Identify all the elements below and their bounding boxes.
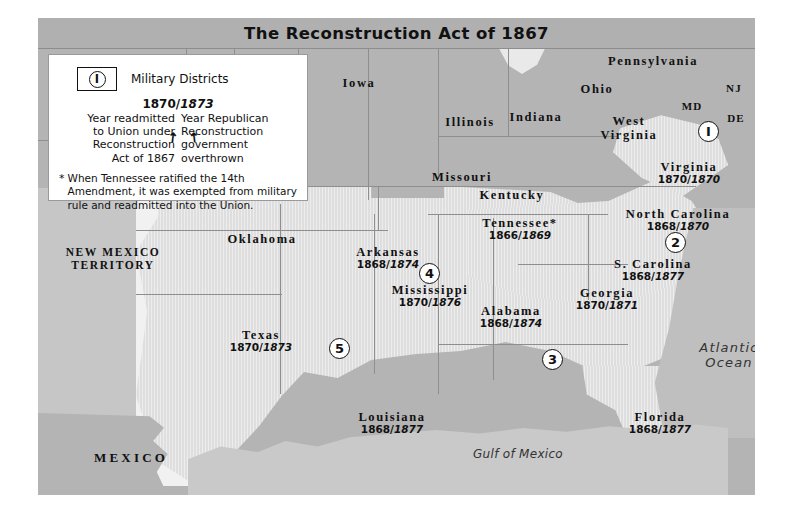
legend-footnote: * When Tennessee ratified the 14th Amend…	[59, 172, 297, 212]
legend-sample-year-overthrown: 1873	[180, 97, 213, 111]
page-title: The Reconstruction Act of 1867	[244, 24, 549, 43]
state-label-ohio: Ohio	[562, 82, 632, 96]
legend-left-note-line-2: to Union under	[59, 125, 175, 138]
region-label-new-mexico-line-1: NEW MEXICO	[48, 246, 178, 259]
state-label-louisiana: Louisiana 1868/1877	[333, 410, 451, 436]
legend-right-note-line-4: overthrown	[181, 152, 297, 165]
state-years-texas: 1870/1873	[206, 342, 316, 354]
state-label-indiana: Indiana	[493, 110, 579, 124]
map-legend: I Military Districts 1870/1873 ↗ ↗ Year …	[48, 54, 308, 201]
state-name-virginia: Virginia	[636, 160, 742, 174]
military-district-4-marker[interactable]: 4	[419, 263, 440, 284]
state-label-tennessee: Tennessee* 1866/1869	[458, 216, 582, 242]
state-border	[378, 186, 379, 230]
military-district-3-marker[interactable]: 3	[542, 349, 563, 370]
state-border	[438, 344, 628, 345]
state-label-new-jersey: NJ	[716, 82, 752, 94]
state-label-missouri: Missouri	[412, 170, 512, 184]
legend-district-swatch: I	[77, 67, 117, 91]
state-label-south-carolina: S. Carolina 1868/1877	[590, 257, 716, 283]
state-label-texas: Texas 1870/1873	[206, 328, 316, 354]
ocean-label-atlantic-line-1: Atlantic	[686, 341, 755, 356]
state-label-west-virginia: West Virginia	[586, 114, 672, 142]
region-label-new-mexico-territory: NEW MEXICO TERRITORY	[48, 246, 178, 272]
state-name-north-carolina: North Carolina	[610, 207, 746, 221]
legend-right-note-line-1: Year Republican	[181, 112, 297, 125]
map-canvas: The Reconstruction Act of 1867 I Militar…	[38, 18, 755, 495]
legend-sample-years: 1870/1873	[59, 97, 297, 111]
legend-left-note-line-1: Year readmitted	[59, 112, 175, 125]
state-years-south-carolina: 1868/1877	[590, 271, 716, 283]
state-label-georgia: Georgia 1870/1871	[555, 286, 659, 312]
state-years-florida: 1868/1877	[608, 424, 712, 436]
region-label-new-mexico-line-2: TERRITORY	[48, 259, 178, 272]
state-years-georgia: 1870/1871	[555, 300, 659, 312]
state-border	[428, 214, 608, 215]
state-name-tennessee: Tennessee*	[458, 216, 582, 230]
state-years-mississippi: 1870/1876	[372, 297, 488, 309]
legend-left-note: Year readmitted to Union under Reconstru…	[59, 112, 175, 165]
state-label-west-virginia-line-1: West	[586, 114, 672, 128]
military-district-icon: I	[89, 71, 106, 88]
ocean-label-atlantic: Atlantic Ocean	[686, 341, 755, 370]
ocean-label-gulf-of-mexico: Gulf of Mexico	[438, 448, 598, 461]
state-label-oklahoma: Oklahoma	[212, 232, 312, 246]
state-years-alabama: 1868/1874	[459, 318, 563, 330]
state-years-tennessee: 1866/1869	[458, 230, 582, 242]
state-border	[438, 48, 439, 178]
state-border	[493, 218, 494, 380]
state-label-mississippi: Mississippi 1870/1876	[372, 283, 488, 309]
military-district-5-marker[interactable]: 5	[329, 338, 350, 359]
state-name-mississippi: Mississippi	[372, 283, 488, 297]
state-border	[368, 48, 369, 200]
state-name-arkansas: Arkansas	[333, 245, 443, 259]
state-years-north-carolina: 1868/1870	[610, 221, 746, 233]
state-name-louisiana: Louisiana	[333, 410, 451, 424]
state-years-virginia: 1870/1870	[636, 174, 742, 186]
map-title-bar: The Reconstruction Act of 1867	[38, 18, 755, 49]
military-district-1-marker[interactable]: I	[698, 121, 719, 142]
legend-left-note-line-4: Act of 1867	[59, 152, 175, 165]
state-name-texas: Texas	[206, 328, 316, 342]
state-label-florida: Florida 1868/1877	[608, 410, 712, 436]
state-border	[136, 294, 282, 295]
state-name-georgia: Georgia	[555, 286, 659, 300]
state-label-delaware: DE	[718, 112, 754, 124]
state-label-west-virginia-line-2: Virginia	[586, 128, 672, 142]
footnote-star: *	[59, 172, 65, 212]
state-label-kentucky: Kentucky	[462, 188, 562, 202]
state-border	[136, 230, 388, 231]
state-label-maryland: MD	[674, 100, 710, 112]
military-district-2-marker[interactable]: 2	[665, 232, 686, 253]
legend-district-row: I Military Districts	[77, 67, 297, 91]
region-label-mexico: MEXICO	[56, 451, 206, 466]
state-label-virginia: Virginia 1870/1870	[636, 160, 742, 186]
legend-district-caption: Military Districts	[131, 72, 229, 86]
ocean-label-atlantic-line-2: Ocean	[686, 356, 755, 371]
state-label-pennsylvania: Pennsylvania	[588, 54, 718, 68]
state-name-south-carolina: S. Carolina	[590, 257, 716, 271]
legend-left-note-line-3: Reconstruction	[59, 138, 175, 151]
footnote-text: When Tennessee ratified the 14th Amendme…	[68, 172, 298, 212]
state-label-iowa: Iowa	[324, 76, 394, 90]
state-name-florida: Florida	[608, 410, 712, 424]
state-years-louisiana: 1868/1877	[333, 424, 451, 436]
state-label-north-carolina: North Carolina 1868/1870	[610, 207, 746, 233]
legend-sample-year-readmitted: 1870	[142, 97, 175, 111]
